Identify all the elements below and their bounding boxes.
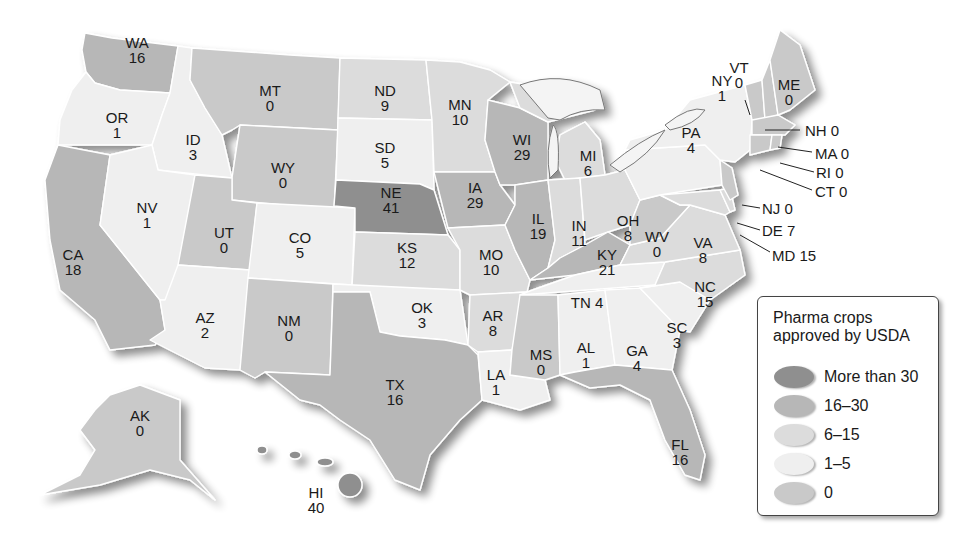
- label-la: LA1: [487, 367, 505, 397]
- state-ct: [750, 135, 772, 155]
- label-al: AL1: [577, 340, 595, 370]
- label-ut: UT0: [214, 225, 234, 255]
- label-hi: HI40: [308, 485, 325, 515]
- label-ky: KY21: [597, 247, 617, 277]
- swatch-icon: [774, 424, 814, 446]
- label-vt: VT0: [729, 60, 748, 90]
- legend-title: Pharma crops approved by USDA: [773, 309, 910, 345]
- label-az: AZ2: [195, 310, 214, 340]
- legend-item-more-than-30: More than 30: [774, 365, 918, 389]
- label-nd: ND9: [374, 83, 396, 113]
- label-sc: SC3: [667, 320, 688, 350]
- state-hi-big: [338, 473, 362, 497]
- swatch-icon: [774, 395, 814, 417]
- state-ak: [40, 385, 215, 500]
- label-md: MD 15: [772, 248, 816, 263]
- label-de: DE 7: [762, 223, 795, 238]
- label-tx: TX16: [385, 377, 404, 407]
- state-hi-oahu: [289, 451, 301, 459]
- label-ia: IA29: [467, 180, 484, 210]
- label-ms: MS0: [530, 347, 553, 377]
- label-co: CO5: [289, 230, 312, 260]
- label-mo: MO10: [479, 247, 503, 277]
- label-ok: OK3: [411, 300, 433, 330]
- label-nj: NJ 0: [762, 201, 793, 216]
- label-fl: FL16: [671, 437, 689, 467]
- label-ar: AR8: [483, 308, 504, 338]
- legend-item-6-15: 6–15: [774, 423, 860, 447]
- label-wi: WI29: [513, 132, 531, 162]
- label-ma: MA 0: [815, 146, 849, 161]
- label-oh: OH8: [617, 213, 640, 243]
- label-ri: RI 0: [816, 165, 844, 180]
- swatch-icon: [774, 453, 814, 475]
- label-ak: AK0: [130, 408, 150, 438]
- lake-michigan: [548, 125, 558, 178]
- label-ks: KS12: [397, 240, 417, 270]
- label-sd: SD5: [375, 140, 396, 170]
- swatch-icon: [774, 482, 814, 504]
- legend-item-1-5: 1–5: [774, 452, 851, 476]
- label-me: ME0: [778, 77, 801, 107]
- state-hi-maui: [317, 458, 333, 466]
- label-ne: NE41: [381, 185, 402, 215]
- label-mt: MT0: [259, 83, 281, 113]
- label-in: IN11: [571, 218, 587, 248]
- state-hi-kauai: [257, 446, 267, 454]
- legend-item-16-30: 16–30: [774, 394, 869, 418]
- legend-item-0: 0: [774, 481, 833, 505]
- label-tn: TN 4: [571, 295, 604, 310]
- label-pa: PA4: [682, 125, 701, 155]
- label-nc: NC15: [694, 279, 716, 309]
- label-nm: NM0: [277, 313, 300, 343]
- label-wa: WA16: [125, 35, 149, 65]
- label-ca: CA18: [63, 247, 84, 277]
- label-nh: NH 0: [805, 123, 839, 138]
- label-mi: MI6: [580, 148, 597, 178]
- swatch-icon: [774, 366, 814, 388]
- label-mn: MN10: [448, 97, 471, 127]
- label-nv: NV1: [137, 200, 158, 230]
- label-il: IL19: [530, 211, 547, 241]
- label-ga: GA4: [626, 343, 648, 373]
- label-or: OR1: [106, 110, 129, 140]
- label-va: VA8: [694, 235, 713, 265]
- label-wy: WY0: [271, 160, 295, 190]
- label-id: ID3: [186, 132, 201, 162]
- label-ct: CT 0: [815, 184, 847, 199]
- label-wv: WV0: [645, 229, 669, 259]
- legend: Pharma crops approved by USDA More than …: [757, 296, 939, 516]
